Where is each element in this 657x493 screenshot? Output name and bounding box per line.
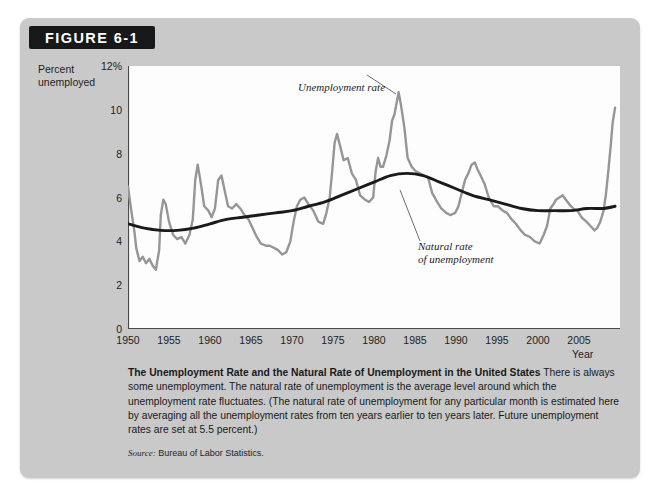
y-axis-title-line2: unemployed	[38, 76, 108, 89]
y-axis-tick-label: 12%	[101, 60, 122, 72]
series-line-unemployment-rate	[128, 92, 615, 270]
x-axis-tick-label: 1995	[485, 334, 508, 346]
x-axis-tick-label: 1960	[198, 334, 221, 346]
annotation-unemployment-rate: Unemployment rate	[298, 81, 385, 94]
x-axis-tick-label: 1955	[157, 334, 180, 346]
y-axis-tick-label: 4	[116, 235, 122, 247]
y-axis-title: Percent unemployed	[38, 63, 108, 88]
figure-number-label: FIGURE 6-1	[45, 30, 139, 46]
annotation-natural-rate-line2: of unemployment	[418, 253, 493, 266]
caption-source: Source: Bureau of Labor Statistics.	[128, 446, 620, 460]
figure-caption: The Unemployment Rate and the Natural Ra…	[128, 366, 620, 461]
y-axis-tick-label: 10	[110, 104, 122, 116]
x-axis-tick-label: 2000	[526, 334, 549, 346]
y-axis-tick-label: 6	[116, 192, 122, 204]
caption-title: The Unemployment Rate and the Natural Ra…	[128, 367, 541, 378]
x-axis-tick-label: 1950	[116, 334, 139, 346]
y-axis-tick-label: 8	[116, 148, 122, 160]
y-axis-title-line1: Percent	[38, 63, 108, 76]
caption-source-text: Bureau of Labor Statistics.	[158, 448, 264, 458]
chart-series	[128, 92, 615, 270]
annotation-leader-lines	[367, 75, 420, 241]
x-axis-tick-label: 1980	[362, 334, 385, 346]
x-axis-tick-label: 1965	[239, 334, 262, 346]
x-axis-tick-label: 2005	[567, 334, 590, 346]
x-axis-label: Year	[572, 348, 593, 360]
y-axis-tick-label: 2	[116, 279, 122, 291]
caption-source-label: Source:	[128, 448, 156, 458]
annotation-natural-rate: Natural rate of unemployment	[418, 240, 493, 266]
chart-plot-region: 024681012%195019551960196519701975198019…	[128, 66, 620, 329]
chart-svg	[128, 66, 620, 329]
leader-line-natural-rate	[400, 190, 420, 241]
x-axis-tick-label: 1970	[280, 334, 303, 346]
figure-panel: FIGURE 6-1 Percent unemployed Unemployme…	[20, 18, 640, 478]
x-axis-tick-label: 1985	[403, 334, 426, 346]
x-axis-tick-label: 1975	[321, 334, 344, 346]
annotation-natural-rate-line1: Natural rate	[418, 240, 493, 253]
figure-number-badge: FIGURE 6-1	[29, 26, 155, 49]
x-axis-tick-label: 1990	[444, 334, 467, 346]
